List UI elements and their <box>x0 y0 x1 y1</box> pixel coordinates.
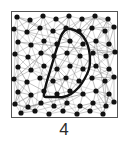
lattice-point <box>102 78 107 83</box>
lattice-point <box>28 67 33 72</box>
lattice-point <box>37 75 42 80</box>
lattice-point <box>25 104 30 109</box>
lattice-point <box>15 39 20 44</box>
lattice-point <box>67 38 72 43</box>
lattice-point <box>11 26 16 31</box>
lattice-point <box>103 53 108 58</box>
lattice-point <box>41 38 46 43</box>
lattice-point <box>80 41 85 46</box>
lattice-point <box>93 88 98 93</box>
lattice-point <box>32 108 37 113</box>
lattice-point <box>54 66 59 71</box>
lattice-point <box>60 108 65 113</box>
lattice-point <box>15 89 20 94</box>
lattice-point <box>41 63 46 68</box>
lattice-point <box>77 53 82 58</box>
lattice-point <box>46 111 51 116</box>
lattice-point <box>90 50 95 55</box>
lattice-point <box>28 42 33 47</box>
lattice-point <box>93 38 98 43</box>
lattice-point <box>15 64 20 69</box>
lattice-point <box>12 101 17 106</box>
lattice-point <box>37 25 42 30</box>
lattice-point <box>24 29 29 34</box>
lattice-point <box>106 41 111 46</box>
figure-caption: 4 <box>0 119 128 140</box>
lattice-point <box>67 63 72 68</box>
lattice-point <box>14 14 19 19</box>
lattice-point <box>92 13 97 18</box>
lattice-point <box>111 74 116 79</box>
lattice-point <box>40 13 45 18</box>
lattice-point <box>100 111 105 116</box>
lattice-point <box>27 17 32 22</box>
lattice-point <box>89 25 94 30</box>
figure-panel <box>11 11 118 118</box>
lattice-point <box>50 28 55 33</box>
lattice-point <box>77 103 82 108</box>
lattice-point <box>111 99 116 104</box>
lattice-point <box>87 108 92 113</box>
lattice-point <box>90 100 95 105</box>
lattice-point <box>25 54 30 59</box>
lattice-point <box>64 100 69 105</box>
lattice-point <box>80 91 85 96</box>
lattice-point <box>64 50 69 55</box>
lattice-mesh-plot <box>11 11 118 118</box>
lattice-point <box>28 92 33 97</box>
lattice-point <box>103 103 108 108</box>
lattice-point <box>93 63 98 68</box>
lattice-point <box>51 103 56 108</box>
lattice-point <box>11 76 16 81</box>
lattice-point <box>53 16 58 21</box>
lattice-point <box>105 16 110 21</box>
lattice-point <box>74 111 79 116</box>
lattice-point <box>102 28 107 33</box>
lattice-point <box>63 75 68 80</box>
lattice-point <box>79 16 84 21</box>
lattice-point <box>24 79 29 84</box>
lattice-point <box>38 50 43 55</box>
lattice-point <box>12 51 17 56</box>
lattice-point <box>111 24 116 29</box>
lattice-point <box>18 110 23 115</box>
lattice-point <box>89 75 94 80</box>
figure-container: 4 <box>0 0 128 144</box>
lattice-point <box>80 66 85 71</box>
lattice-point <box>38 100 43 105</box>
lattice-point <box>50 78 55 83</box>
lattice-point <box>106 66 111 71</box>
lattice-point <box>112 49 117 54</box>
lattice-point <box>66 13 71 18</box>
lattice-point <box>106 91 111 96</box>
